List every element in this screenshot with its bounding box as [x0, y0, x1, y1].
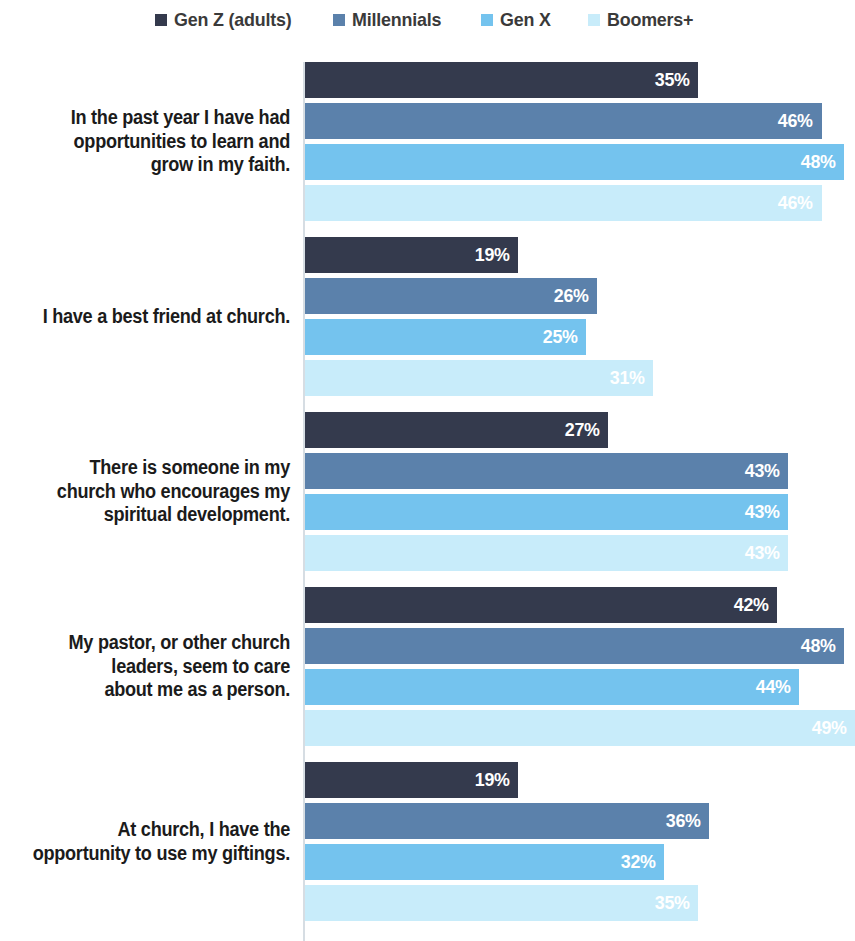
bar: 42%: [305, 587, 777, 623]
bar-row: 27%: [305, 412, 844, 448]
bar-row: 48%: [305, 144, 844, 180]
category-label-line: opportunity to use my giftings.: [20, 842, 290, 866]
bar-value-label: 19%: [475, 244, 518, 266]
bar-row: 35%: [305, 885, 844, 921]
bar: 43%: [305, 494, 788, 530]
bar-row: 44%: [305, 669, 844, 705]
chart-legend: Gen Z (adults)MillennialsGen XBoomers+: [0, 0, 844, 40]
bar-row: 19%: [305, 237, 844, 273]
bar: 48%: [305, 144, 844, 180]
bar-row: 43%: [305, 453, 844, 489]
category-label-line: opportunities to learn and: [20, 130, 290, 154]
bar-group-bars: 35%46%48%46%: [305, 62, 844, 222]
bar-row: 46%: [305, 103, 844, 139]
legend-swatch-icon: [481, 14, 493, 26]
legend-label: Gen Z (adults): [174, 9, 291, 31]
legend-entry: Boomers+: [588, 9, 699, 31]
bar: 43%: [305, 453, 788, 489]
category-label: There is someone in mychurch who encoura…: [20, 456, 290, 527]
bar: 26%: [305, 278, 597, 314]
legend-swatch-icon: [588, 14, 600, 26]
bar-value-label: 43%: [745, 501, 788, 523]
bar: 43%: [305, 535, 788, 571]
legend-entry: Gen Z (adults): [155, 9, 299, 31]
legend-label: Boomers+: [607, 9, 693, 31]
category-label-line: In the past year I have had: [20, 106, 290, 130]
bar-value-label: 44%: [756, 676, 799, 698]
bar-row: 43%: [305, 535, 844, 571]
category-label-line: There is someone in my: [20, 456, 290, 480]
bar-row: 48%: [305, 628, 844, 664]
bar: 44%: [305, 669, 799, 705]
bar-value-label: 48%: [801, 635, 844, 657]
category-label: At church, I have theopportunity to use …: [20, 818, 290, 865]
bar-group-bars: 19%26%25%31%: [305, 237, 844, 397]
category-label-line: leaders, seem to care: [20, 655, 290, 679]
legend-label: Gen X: [500, 9, 551, 31]
bar-group: There is someone in mychurch who encoura…: [0, 412, 844, 572]
bar: 49%: [305, 710, 855, 746]
bar-value-label: 19%: [475, 769, 518, 791]
category-label-line: church who encourages my: [20, 480, 290, 504]
bar-row: 25%: [305, 319, 844, 355]
category-label-line: grow in my faith.: [20, 153, 290, 177]
bar: 19%: [305, 762, 518, 798]
bar: 32%: [305, 844, 664, 880]
bar: 48%: [305, 628, 844, 664]
bar: 46%: [305, 185, 822, 221]
bar-group: At church, I have theopportunity to use …: [0, 762, 844, 922]
category-label-line: My pastor, or other church: [20, 631, 290, 655]
legend-entry: Gen X: [481, 9, 554, 31]
bar-group: In the past year I have hadopportunities…: [0, 62, 844, 222]
bar-value-label: 43%: [745, 460, 788, 482]
bar-group: I have a best friend at church.19%26%25%…: [0, 237, 844, 397]
bar: 46%: [305, 103, 822, 139]
bar: 31%: [305, 360, 653, 396]
bar-group: My pastor, or other churchleaders, seem …: [0, 587, 844, 747]
bar-row: 32%: [305, 844, 844, 880]
bar-value-label: 49%: [812, 717, 855, 739]
bar: 27%: [305, 412, 608, 448]
bar: 35%: [305, 885, 698, 921]
bar-value-label: 27%: [565, 419, 608, 441]
bar-value-label: 35%: [655, 69, 698, 91]
bar-value-label: 26%: [554, 285, 597, 307]
bar-row: 35%: [305, 62, 844, 98]
bar-row: 31%: [305, 360, 844, 396]
bar: 35%: [305, 62, 698, 98]
bar-value-label: 46%: [778, 110, 821, 132]
bar: 19%: [305, 237, 518, 273]
bar-value-label: 48%: [801, 151, 844, 173]
category-label-line: about me as a person.: [20, 678, 290, 702]
category-label-line: I have a best friend at church.: [20, 305, 290, 329]
bar-group-bars: 42%48%44%49%: [305, 587, 844, 747]
bar-row: 36%: [305, 803, 844, 839]
bar-value-label: 42%: [733, 594, 776, 616]
chart-plot-area: In the past year I have hadopportunities…: [0, 40, 844, 941]
bar-value-label: 43%: [745, 542, 788, 564]
bar-value-label: 32%: [621, 851, 664, 873]
bar: 25%: [305, 319, 586, 355]
category-label: In the past year I have hadopportunities…: [20, 106, 290, 177]
bar-row: 42%: [305, 587, 844, 623]
bar-group-bars: 19%36%32%35%: [305, 762, 844, 922]
bar-row: 49%: [305, 710, 844, 746]
bar: 36%: [305, 803, 709, 839]
bar-value-label: 25%: [542, 326, 585, 348]
category-label-line: spiritual development.: [20, 503, 290, 527]
bar-row: 43%: [305, 494, 844, 530]
category-label: I have a best friend at church.: [20, 305, 290, 329]
category-label: My pastor, or other churchleaders, seem …: [20, 631, 290, 702]
legend-swatch-icon: [333, 14, 345, 26]
legend-label: Millennials: [352, 9, 441, 31]
bar-row: 19%: [305, 762, 844, 798]
bar-value-label: 36%: [666, 810, 709, 832]
bar-value-label: 35%: [655, 892, 698, 914]
bar-value-label: 31%: [610, 367, 653, 389]
bar-value-label: 46%: [778, 192, 821, 214]
bar-group-bars: 27%43%43%43%: [305, 412, 844, 572]
category-label-line: At church, I have the: [20, 818, 290, 842]
legend-entry: Millennials: [333, 9, 447, 31]
bar-row: 26%: [305, 278, 844, 314]
legend-swatch-icon: [155, 14, 167, 26]
